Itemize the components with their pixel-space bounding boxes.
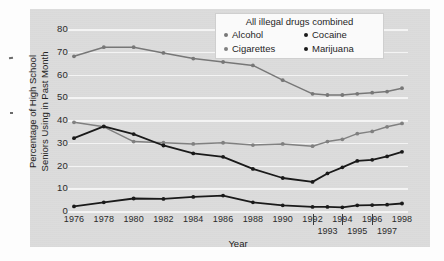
y-axis-title-line2: Seniors Using in Past Month — [38, 52, 49, 172]
data-point-cigarettes — [400, 122, 404, 126]
x-tick-label: 1978 — [89, 214, 119, 224]
data-point-cigarettes — [281, 142, 285, 146]
data-point-cigarettes — [370, 129, 374, 133]
gridline — [68, 211, 408, 213]
data-point-cigarettes — [72, 120, 76, 124]
x-tick-label-secondary: 1997 — [372, 226, 402, 236]
data-point-cocaine — [221, 194, 225, 198]
data-point-marijuana — [221, 155, 225, 159]
x-tick-label: 1980 — [119, 214, 149, 224]
y-axis-title-line1: Percentage of High School — [27, 55, 38, 168]
data-point-alcohol — [251, 64, 255, 68]
data-point-cocaine — [355, 203, 359, 207]
legend-label-cocaine: Cocaine — [312, 29, 347, 40]
data-point-cigarettes — [132, 140, 136, 144]
data-point-marijuana — [132, 132, 136, 136]
x-tick-label: 1986 — [208, 214, 238, 224]
legend-item-alcohol: Alcohol — [224, 29, 263, 40]
data-point-alcohol — [385, 90, 389, 94]
x-axis-ticks-top: 1976197819801982198419861988199019921994… — [74, 214, 402, 226]
data-point-alcohol — [326, 93, 330, 97]
data-point-marijuana — [281, 176, 285, 180]
x-axis-title: Year — [74, 238, 402, 249]
data-point-cocaine — [162, 197, 166, 201]
data-point-cigarettes — [191, 142, 195, 146]
legend-marker-icon — [304, 47, 308, 51]
data-point-alcohol — [355, 92, 359, 96]
data-point-alcohol — [311, 92, 315, 96]
data-point-marijuana — [385, 155, 389, 159]
data-point-alcohol — [400, 86, 404, 90]
data-point-cocaine — [281, 203, 285, 207]
data-point-cigarettes — [355, 132, 359, 136]
x-tick-label: 1998 — [387, 214, 417, 224]
data-point-marijuana — [370, 158, 374, 162]
data-point-cigarettes — [385, 125, 389, 129]
scan-artifact-mark — [10, 112, 13, 114]
data-point-marijuana — [311, 180, 315, 184]
data-point-marijuana — [326, 172, 330, 176]
data-point-alcohol — [132, 45, 136, 49]
data-point-cocaine — [102, 200, 106, 204]
legend-label-alcohol: Alcohol — [232, 29, 263, 40]
data-point-alcohol — [102, 45, 106, 49]
x-tick-label: 1976 — [59, 214, 89, 224]
chart-legend: All illegal drugs combined Alcohol Cocai… — [215, 13, 384, 59]
data-point-cocaine — [72, 205, 76, 209]
data-point-alcohol — [281, 78, 285, 82]
x-axis-separator — [342, 214, 343, 225]
x-axis-ticks-bottom: 199319951997 — [74, 226, 402, 238]
x-axis-separator — [372, 214, 373, 225]
data-point-marijuana — [340, 165, 344, 169]
x-tick-label: 1984 — [178, 214, 208, 224]
legend-item-marijuana: Marijuana — [304, 43, 354, 54]
data-point-marijuana — [72, 136, 76, 140]
legend-row-1: Alcohol Cocaine — [224, 29, 383, 41]
data-point-alcohol — [191, 57, 195, 61]
data-point-cigarettes — [251, 143, 255, 147]
data-point-marijuana — [251, 167, 255, 171]
x-tick-label-secondary: 1995 — [342, 226, 372, 236]
x-tick-label: 1990 — [268, 214, 298, 224]
legend-marker-icon — [304, 33, 308, 37]
data-point-cocaine — [251, 200, 255, 204]
data-point-cocaine — [370, 203, 374, 207]
legend-marker-icon — [224, 33, 228, 37]
data-point-alcohol — [340, 93, 344, 97]
y-axis-title: Percentage of High School Seniors Using … — [36, 40, 60, 200]
x-tick-label-secondary: 1993 — [312, 226, 342, 236]
data-point-cocaine — [400, 202, 404, 206]
data-point-marijuana — [162, 144, 166, 148]
x-tick-label: 1982 — [148, 214, 178, 224]
legend-item-cocaine: Cocaine — [304, 29, 347, 40]
data-point-cocaine — [191, 195, 195, 199]
data-point-cigarettes — [221, 141, 225, 145]
data-point-marijuana — [400, 150, 404, 154]
chart-screenshot: 80706050403020100 Percentage of High Sch… — [0, 0, 444, 261]
data-point-alcohol — [162, 51, 166, 55]
data-point-alcohol — [72, 54, 76, 58]
legend-label-cigarettes: Cigarettes — [232, 43, 275, 54]
data-point-marijuana — [191, 152, 195, 156]
data-point-marijuana — [355, 159, 359, 163]
x-tick-label: 1988 — [238, 214, 268, 224]
legend-row-2: Cigarettes Marijuana — [224, 43, 383, 55]
data-point-cocaine — [132, 197, 136, 201]
series-line-cocaine — [74, 196, 402, 208]
data-point-cigarettes — [311, 144, 315, 148]
series-line-cigarettes — [74, 122, 402, 146]
data-point-cigarettes — [340, 137, 344, 141]
data-point-alcohol — [370, 91, 374, 95]
legend-marker-icon — [224, 47, 228, 51]
x-axis-separator — [313, 214, 314, 225]
data-point-cocaine — [326, 205, 330, 209]
data-point-cocaine — [385, 203, 389, 207]
data-point-cigarettes — [326, 140, 330, 144]
data-point-cocaine — [340, 205, 344, 209]
data-point-alcohol — [221, 60, 225, 64]
legend-title: All illegal drugs combined — [216, 16, 383, 27]
legend-item-cigarettes: Cigarettes — [224, 43, 275, 54]
data-point-marijuana — [102, 124, 106, 128]
legend-label-marijuana: Marijuana — [312, 43, 354, 54]
data-point-cocaine — [311, 205, 315, 209]
